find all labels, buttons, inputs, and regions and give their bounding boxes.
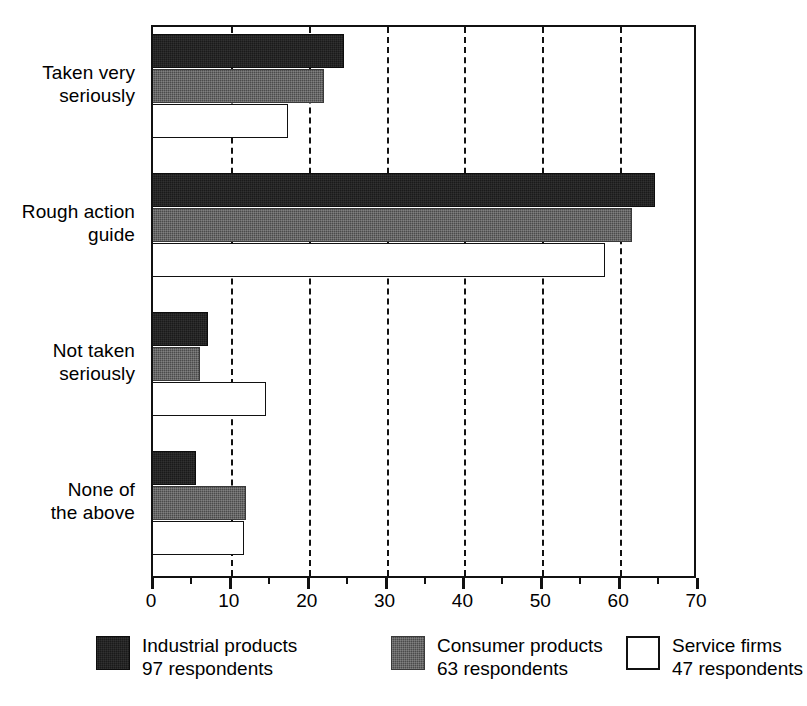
- axis-tick-label: 20: [296, 590, 317, 611]
- legend-item[interactable]: Industrial products97 respondents: [96, 634, 297, 680]
- legend-item[interactable]: Consumer products63 respondents: [391, 634, 603, 680]
- legend-swatch-icon: [96, 636, 130, 670]
- axis-tick-major: [696, 578, 699, 589]
- category-label: None of the above: [51, 478, 135, 524]
- bar: [153, 521, 244, 555]
- category-label: Not taken seriously: [53, 339, 135, 385]
- bar: [153, 34, 344, 68]
- bar: [153, 347, 200, 381]
- bar: [153, 69, 324, 103]
- axis-tick-major: [385, 578, 388, 589]
- axis-tick-label: 30: [374, 590, 395, 611]
- axis-tick-major: [618, 578, 621, 589]
- axis-tick-major: [151, 578, 154, 589]
- gridline: [387, 27, 389, 576]
- axis-tick-major: [462, 578, 465, 589]
- gridline: [464, 27, 466, 576]
- category-label: Taken very seriously: [42, 61, 135, 107]
- bar: [153, 243, 605, 277]
- value-axis: 010203040506070: [151, 578, 696, 618]
- axis-tick-minor: [501, 578, 503, 584]
- axis-tick-label: 0: [146, 590, 157, 611]
- legend-swatch-icon: [626, 636, 660, 670]
- legend-item[interactable]: Service firms47 respondents: [626, 634, 803, 680]
- gridline: [620, 27, 622, 576]
- category-label: Rough action guide: [22, 200, 135, 246]
- axis-tick-minor: [346, 578, 348, 584]
- bar: [153, 208, 632, 242]
- legend-respondents: 97 respondents: [142, 657, 297, 680]
- bar-chart: Taken very seriouslyRough action guideNo…: [0, 0, 807, 706]
- bar: [153, 104, 288, 138]
- axis-tick-minor: [579, 578, 581, 584]
- plot-inner: [153, 27, 694, 576]
- legend-respondents: 47 respondents: [672, 657, 803, 680]
- axis-tick-label: 50: [530, 590, 551, 611]
- axis-tick-major: [540, 578, 543, 589]
- bar: [153, 312, 208, 346]
- bar: [153, 173, 655, 207]
- legend-respondents: 63 respondents: [437, 657, 603, 680]
- axis-tick-minor: [424, 578, 426, 584]
- legend-label: Consumer products: [437, 634, 603, 657]
- axis-tick-label: 40: [452, 590, 473, 611]
- axis-tick-minor: [268, 578, 270, 584]
- chart-legend: Industrial products97 respondentsConsume…: [0, 634, 807, 696]
- bar: [153, 486, 246, 520]
- bar: [153, 382, 266, 416]
- axis-tick-major: [307, 578, 310, 589]
- legend-label: Service firms: [672, 634, 803, 657]
- axis-tick-label: 10: [218, 590, 239, 611]
- gridline: [542, 27, 544, 576]
- axis-tick-major: [229, 578, 232, 589]
- legend-swatch-icon: [391, 636, 425, 670]
- axis-tick-label: 60: [608, 590, 629, 611]
- legend-label: Industrial products: [142, 634, 297, 657]
- axis-tick-minor: [657, 578, 659, 584]
- axis-tick-minor: [190, 578, 192, 584]
- bar: [153, 451, 196, 485]
- category-axis-labels: Taken very seriouslyRough action guideNo…: [0, 25, 143, 578]
- axis-tick-label: 70: [685, 590, 706, 611]
- gridline: [309, 27, 311, 576]
- plot-area: [151, 25, 696, 578]
